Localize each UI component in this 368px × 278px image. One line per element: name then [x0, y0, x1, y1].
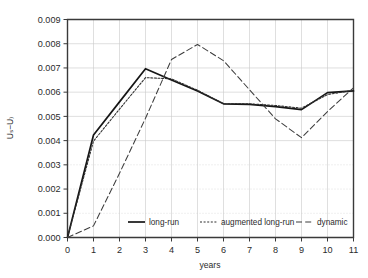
legend-label-long-run: long-run: [149, 218, 179, 227]
x-tick-label: 6: [221, 245, 226, 255]
y-tick-label: 0.000: [38, 233, 61, 243]
y-tick-label: 0.002: [38, 184, 61, 194]
x-tick-label: 5: [195, 245, 200, 255]
y-tick-label: 0.009: [38, 15, 61, 25]
y-tick-label: 0.001: [38, 208, 61, 218]
axis-ticks: [64, 20, 354, 242]
line-chart: 0.0000.0010.0020.0030.0040.0050.0060.007…: [0, 0, 368, 278]
x-tick-label: 4: [169, 245, 174, 255]
x-tick-label: 1: [91, 245, 96, 255]
x-tick-label: 2: [117, 245, 122, 255]
x-tick-label: 10: [322, 245, 332, 255]
y-tick-label: 0.003: [38, 160, 61, 170]
y-tick-label: 0.008: [38, 39, 61, 49]
x-tick-label: 11: [349, 245, 358, 255]
x-tick-label: 7: [247, 245, 252, 255]
series-line-dynamic: [68, 44, 354, 237]
y-axis-title: Uₛ−U₎: [5, 117, 15, 139]
x-tick-label: 3: [143, 245, 148, 255]
legend-label-dynamic: dynamic: [317, 218, 348, 227]
y-tick-label: 0.005: [38, 112, 61, 122]
x-tick-label: 8: [273, 245, 278, 255]
y-tick-label: 0.004: [38, 136, 61, 146]
x-tick-labels: 01234567891011: [65, 245, 358, 255]
x-tick-label: 9: [299, 245, 304, 255]
chart-legend: long-runaugmented long-rundynamic: [128, 218, 348, 227]
legend-label-augmented-long-run: augmented long-run: [221, 218, 295, 227]
chart-figure: 0.0000.0010.0020.0030.0040.0050.0060.007…: [0, 0, 368, 278]
y-tick-labels: 0.0000.0010.0020.0030.0040.0050.0060.007…: [38, 15, 61, 243]
x-tick-label: 0: [65, 245, 70, 255]
y-tick-label: 0.006: [38, 87, 61, 97]
series-line-long-run: [68, 69, 354, 238]
y-tick-label: 0.007: [38, 63, 61, 73]
x-axis-title: years: [199, 260, 220, 270]
data-series: [68, 44, 354, 237]
